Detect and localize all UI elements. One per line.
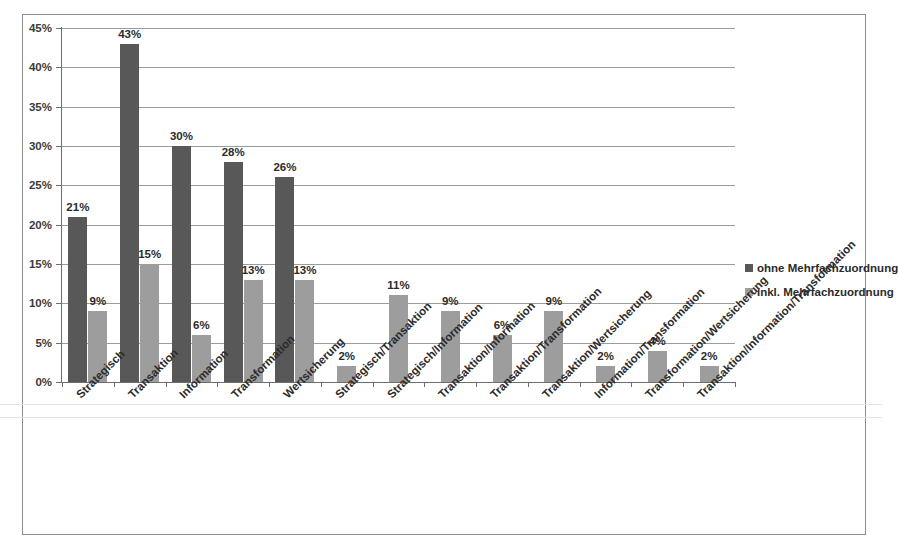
scan-artifact-line xyxy=(0,417,882,418)
x-axis-tick xyxy=(683,382,684,387)
scan-artifact-line xyxy=(0,404,882,405)
y-axis-tick xyxy=(56,146,62,147)
gridline xyxy=(62,225,735,226)
x-axis-tick xyxy=(62,382,63,387)
y-axis-tick xyxy=(56,303,62,304)
x-axis-tick xyxy=(269,382,270,387)
x-axis-tick xyxy=(528,382,529,387)
x-axis-tick xyxy=(321,382,322,387)
gridline xyxy=(62,28,735,29)
x-axis-tick xyxy=(217,382,218,387)
legend-item[interactable]: ohne Mehrfachzuordnung xyxy=(745,262,865,274)
y-axis-labels: 0%5%10%15%20%25%30%35%40%45% xyxy=(0,0,52,553)
bar-value-label: 26% xyxy=(273,161,296,173)
bar-value-label: 2% xyxy=(597,350,614,362)
legend-item-label: inkl. Mehrfachzuordnung xyxy=(757,286,894,298)
bar-value-label: 43% xyxy=(118,28,141,40)
x-axis-tick xyxy=(476,382,477,387)
y-axis-tick xyxy=(56,107,62,108)
gridline xyxy=(62,107,735,108)
x-axis-tick xyxy=(166,382,167,387)
y-axis-tick-label: 10% xyxy=(29,297,52,309)
bar-value-label: 15% xyxy=(138,248,161,260)
y-axis-tick-label: 40% xyxy=(29,61,52,73)
y-axis-tick-label: 35% xyxy=(29,101,52,113)
bar-value-label: 9% xyxy=(442,295,459,307)
bar-value-label: 30% xyxy=(170,130,193,142)
x-axis-tick xyxy=(631,382,632,387)
gridline xyxy=(62,67,735,68)
bar-value-label: 13% xyxy=(293,264,316,276)
x-axis-tick xyxy=(735,382,736,387)
x-axis-tick xyxy=(424,382,425,387)
bar-value-label: 6% xyxy=(193,319,210,331)
bar-value-label: 2% xyxy=(701,350,718,362)
y-axis-tick xyxy=(56,28,62,29)
gridline xyxy=(62,146,735,147)
bar-ohne-mehrfachzuordnung[interactable] xyxy=(172,146,191,382)
y-axis-tick-label: 45% xyxy=(29,22,52,34)
bar-ohne-mehrfachzuordnung[interactable] xyxy=(120,44,139,382)
y-axis-tick xyxy=(56,225,62,226)
y-axis-tick-label: 5% xyxy=(35,337,52,349)
bar-value-label: 2% xyxy=(338,350,355,362)
y-axis-tick-label: 20% xyxy=(29,219,52,231)
y-axis-tick-label: 30% xyxy=(29,140,52,152)
y-axis-tick xyxy=(56,343,62,344)
bar-value-label: 28% xyxy=(222,146,245,158)
y-axis-tick xyxy=(56,185,62,186)
bar-value-label: 9% xyxy=(90,295,107,307)
bar-value-label: 9% xyxy=(545,295,562,307)
x-axis-tick xyxy=(373,382,374,387)
gridline xyxy=(62,185,735,186)
bar-value-label: 13% xyxy=(242,264,265,276)
y-axis-tick-label: 15% xyxy=(29,258,52,270)
bar-ohne-mehrfachzuordnung[interactable] xyxy=(68,217,87,382)
y-axis-tick-label: 25% xyxy=(29,179,52,191)
bar-value-label: 11% xyxy=(387,279,409,291)
bar-ohne-mehrfachzuordnung[interactable] xyxy=(224,162,243,382)
x-axis-tick xyxy=(114,382,115,387)
y-axis-tick xyxy=(56,67,62,68)
legend-swatch-icon xyxy=(745,264,753,272)
x-axis-tick xyxy=(580,382,581,387)
bar-value-label: 21% xyxy=(66,201,89,213)
y-axis-tick-label: 0% xyxy=(35,376,52,388)
y-axis-tick xyxy=(56,264,62,265)
gridline xyxy=(62,264,735,265)
